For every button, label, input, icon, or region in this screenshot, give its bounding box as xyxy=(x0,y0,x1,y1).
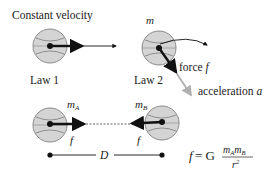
law3-group: mA f mB f D xyxy=(33,98,179,161)
law1-title: Constant velocity xyxy=(12,9,93,22)
mass-label: m xyxy=(146,14,154,26)
law2-label: Law 2 xyxy=(134,74,163,86)
formula-denominator: r2 xyxy=(232,158,240,170)
gravitation-formula: f = G mAmB r2 xyxy=(189,144,253,170)
distance-label: D xyxy=(99,149,109,161)
law1-group: Constant velocity Law 1 xyxy=(12,9,116,86)
force-arrow-b xyxy=(132,122,162,124)
force-a-label: f xyxy=(70,134,75,146)
formula-numerator: mAmB xyxy=(223,144,245,156)
force-label: force f xyxy=(179,61,211,74)
force-b-label: f xyxy=(137,134,142,146)
acceleration-label: acceleration a xyxy=(198,85,262,97)
mass-b-label: mB xyxy=(135,98,148,112)
law2-group: m force f acceleration a Law 2 xyxy=(134,14,262,97)
newton-laws-diagram: Constant velocity Law 1 m force f accele… xyxy=(0,0,276,179)
mass-a-label: mA xyxy=(67,98,80,112)
acceleration-arrow xyxy=(177,74,191,95)
law1-label: Law 1 xyxy=(30,74,59,86)
formula-eq: = G xyxy=(195,148,215,163)
